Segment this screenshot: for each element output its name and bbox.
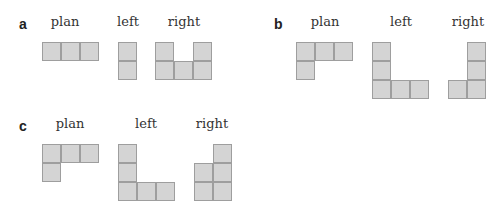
cube-square xyxy=(467,42,486,61)
cube-square xyxy=(391,80,410,99)
view-caption-right: right xyxy=(168,15,200,28)
cube-square xyxy=(467,80,486,99)
cube-square xyxy=(194,182,213,201)
cube-square xyxy=(80,42,99,61)
view-caption-plan: plan xyxy=(51,15,80,28)
cube-square xyxy=(118,144,137,163)
cube-square xyxy=(155,42,174,61)
cube-square xyxy=(118,163,137,182)
view-caption-left: left xyxy=(390,15,412,28)
cube-square xyxy=(118,42,137,61)
cube-square xyxy=(42,163,61,182)
cube-square xyxy=(137,182,156,201)
view-caption-plan: plan xyxy=(311,15,340,28)
cube-square xyxy=(42,42,61,61)
panel-label: b xyxy=(274,17,283,31)
cube-square xyxy=(118,182,137,201)
view-caption-plan: plan xyxy=(56,117,85,130)
cube-square xyxy=(334,42,353,61)
cube-square xyxy=(155,61,174,80)
cube-square xyxy=(372,61,391,80)
cube-square xyxy=(213,163,232,182)
cube-square xyxy=(315,42,334,61)
cube-square xyxy=(213,182,232,201)
cube-square xyxy=(174,61,193,80)
cube-square xyxy=(296,42,315,61)
cube-square xyxy=(296,61,315,80)
cube-square xyxy=(118,61,137,80)
cube-square xyxy=(80,144,99,163)
cube-square xyxy=(372,80,391,99)
cube-square xyxy=(410,80,429,99)
cube-square xyxy=(467,61,486,80)
view-caption-left: left xyxy=(135,117,157,130)
cube-square xyxy=(156,182,175,201)
view-caption-right: right xyxy=(196,117,228,130)
panel-label: c xyxy=(19,119,27,133)
cube-square xyxy=(194,163,213,182)
view-caption-left: left xyxy=(117,15,139,28)
cube-square xyxy=(213,144,232,163)
cube-square xyxy=(61,144,80,163)
cube-square xyxy=(193,42,212,61)
cube-square xyxy=(193,61,212,80)
cube-square xyxy=(448,80,467,99)
cube-square xyxy=(42,144,61,163)
cube-square xyxy=(372,42,391,61)
cube-square xyxy=(61,42,80,61)
view-caption-right: right xyxy=(452,15,484,28)
panel-label: a xyxy=(19,17,27,31)
